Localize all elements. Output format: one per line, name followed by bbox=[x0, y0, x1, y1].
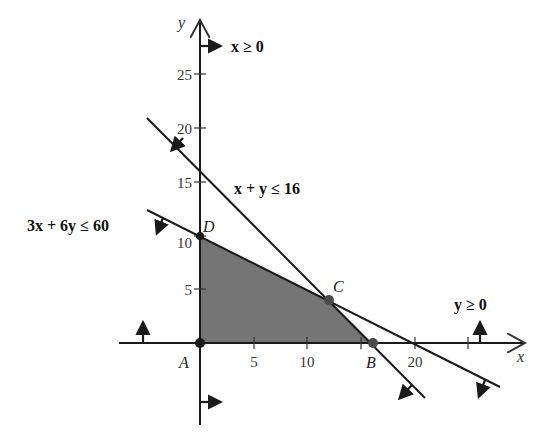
vertex-label-C: C bbox=[333, 278, 344, 295]
vertex-B bbox=[368, 338, 378, 348]
direction-arrow-icon bbox=[479, 380, 485, 396]
direction-arrow-icon bbox=[400, 385, 412, 398]
y-tick-label-20: 20 bbox=[177, 121, 192, 137]
feasible-region-graph: 5 10 20 5 10 15 20 25 x y x ≥ 0 y ≥ 0 x … bbox=[0, 0, 546, 444]
constraint-label-3x-plus-6y: 3x + 6y ≤ 60 bbox=[27, 217, 109, 235]
x-axis-label: x bbox=[516, 348, 524, 365]
y-axis-label: y bbox=[176, 14, 186, 32]
vertex-C bbox=[324, 295, 334, 305]
constraint-label-y-nonneg: y ≥ 0 bbox=[454, 296, 487, 314]
feasible-region bbox=[200, 236, 372, 343]
vertex-label-A: A bbox=[178, 354, 189, 371]
y-tick-label-25: 25 bbox=[177, 67, 192, 83]
y-tick-label-15: 15 bbox=[177, 175, 192, 191]
constraint-label-x-nonneg: x ≥ 0 bbox=[231, 38, 264, 55]
vertex-A bbox=[195, 338, 205, 348]
vertex-label-D: D bbox=[202, 218, 215, 235]
direction-arrow-icon bbox=[157, 218, 163, 233]
x-tick-label-5: 5 bbox=[250, 354, 258, 370]
x-tick-label-20: 20 bbox=[408, 354, 423, 370]
vertex-label-B: B bbox=[366, 354, 376, 371]
constraint-label-x-plus-y: x + y ≤ 16 bbox=[234, 180, 300, 198]
x-tick-label-10: 10 bbox=[300, 354, 315, 370]
y-tick-label-10: 10 bbox=[177, 235, 192, 251]
y-tick-label-5: 5 bbox=[185, 282, 193, 298]
